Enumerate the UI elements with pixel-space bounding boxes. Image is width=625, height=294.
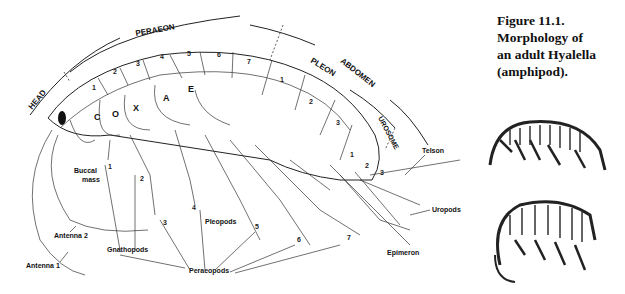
hyalella-side-view-thumbnail xyxy=(490,122,605,170)
abdomen-label: ABDOMEN xyxy=(339,56,377,89)
caption-line-2: an adult Hyalella (amphipod). xyxy=(497,46,625,80)
peraeopods-label: Peraeopods xyxy=(189,267,229,275)
eye xyxy=(58,111,66,125)
svg-text:1: 1 xyxy=(108,163,112,170)
telson-label: Telson xyxy=(422,147,444,154)
svg-text:2: 2 xyxy=(309,98,313,105)
svg-text:3: 3 xyxy=(380,169,384,176)
pleopods-label: Pleopods xyxy=(205,218,237,226)
figure-caption: Figure 11.1. Morphology of an adult Hyal… xyxy=(497,12,625,80)
head-label: HEAD xyxy=(27,88,49,111)
svg-text:6: 6 xyxy=(297,236,301,243)
antenna-2-label: Antenna 2 xyxy=(54,232,88,239)
caption-line-1: Figure 11.1. Morphology of xyxy=(497,12,625,46)
svg-text:3: 3 xyxy=(163,219,167,226)
svg-text:2: 2 xyxy=(113,68,117,75)
svg-text:1: 1 xyxy=(350,151,354,158)
antenna-1 xyxy=(32,130,85,275)
svg-text:4: 4 xyxy=(160,53,164,60)
svg-text:3: 3 xyxy=(136,60,140,67)
svg-text:4: 4 xyxy=(192,204,196,211)
svg-text:7: 7 xyxy=(247,58,251,65)
svg-text:5: 5 xyxy=(255,223,259,230)
svg-text:2: 2 xyxy=(365,162,369,169)
svg-text:1: 1 xyxy=(280,76,284,83)
coxae-letter-x: X xyxy=(133,103,139,113)
uropods-label: Uropods xyxy=(432,206,461,214)
coxae-letter-o: O xyxy=(112,109,119,119)
epimeron-label: Epimeron xyxy=(387,249,419,257)
svg-text:7: 7 xyxy=(347,234,351,241)
svg-text:1: 1 xyxy=(92,84,96,91)
buccal-mass-label-2: mass xyxy=(82,176,100,183)
coxae-letter-c: C xyxy=(94,112,101,122)
peraeon-bracket-arc-right xyxy=(250,25,315,45)
gnathopods-label: Gnathopods xyxy=(107,246,148,254)
coxae-letter-a: A xyxy=(163,93,170,103)
buccal-mass-label: Buccal xyxy=(74,167,97,174)
coxae-letter-e: E xyxy=(188,84,194,94)
antenna-2 xyxy=(51,135,148,231)
svg-text:2: 2 xyxy=(140,175,144,182)
svg-text:5: 5 xyxy=(187,50,191,57)
svg-text:3: 3 xyxy=(336,119,340,126)
antenna-1-label: Antenna 1 xyxy=(26,262,60,269)
svg-text:6: 6 xyxy=(217,51,221,58)
hyalella-curled-view-thumbnail xyxy=(495,202,595,282)
peraeon-label: PERAEON xyxy=(135,22,176,38)
pleon-label: PLEON xyxy=(309,56,337,78)
